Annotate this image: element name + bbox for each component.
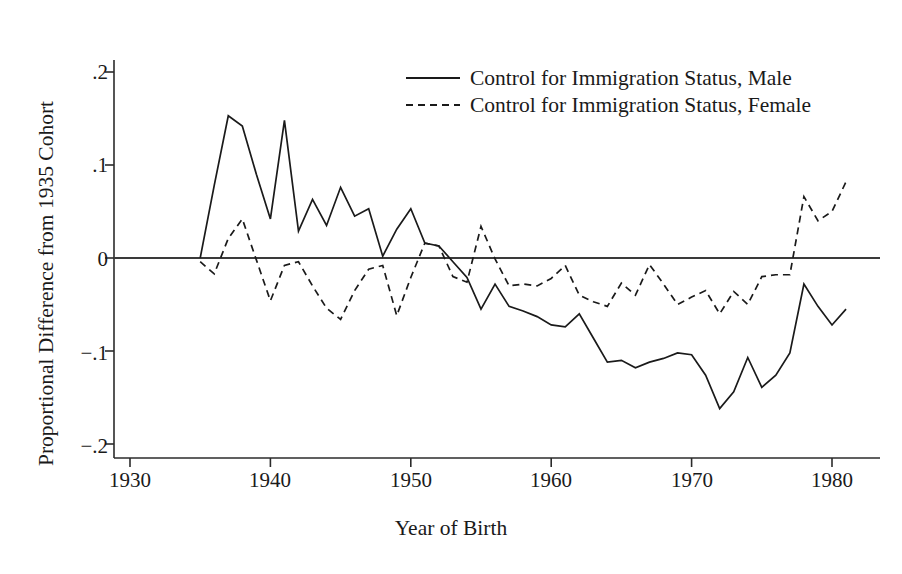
- x-tick-label-1960: 1960: [511, 470, 591, 491]
- x-tick-label-1950: 1950: [371, 470, 451, 491]
- series-line-female: [200, 182, 846, 320]
- x-tick-label-1970: 1970: [652, 470, 732, 491]
- y-tick-label-0: .2: [76, 62, 108, 83]
- x-tick-label-1930: 1930: [90, 470, 170, 491]
- legend-label-male: Control for Immigration Status, Male: [470, 66, 792, 91]
- x-axis-title: Year of Birth: [0, 516, 902, 541]
- y-axis-title: Proportional Difference from 1935 Cohort: [34, 101, 59, 466]
- y-tick-label-3: −.1: [66, 343, 108, 364]
- x-tick-label-1980: 1980: [792, 470, 872, 491]
- y-tick-label-1: .1: [76, 155, 108, 176]
- legend-label-female: Control for Immigration Status, Female: [470, 93, 811, 118]
- y-tick-label-2: 0: [76, 249, 108, 270]
- chart-figure: .2 .1 0 −.1 −.2 1930 1940 1950 1960 1970…: [0, 0, 902, 574]
- y-tick-label-4: −.2: [66, 436, 108, 457]
- x-tick-label-1940: 1940: [230, 470, 310, 491]
